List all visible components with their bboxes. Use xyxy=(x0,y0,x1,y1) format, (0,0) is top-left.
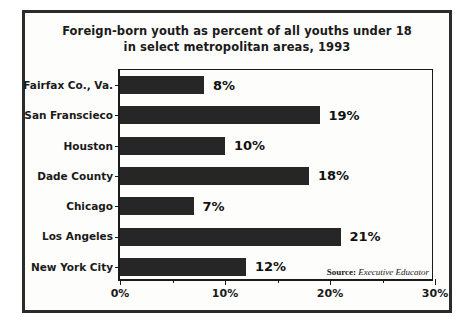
bar-value-label: 12% xyxy=(255,259,286,274)
x-axis-tick xyxy=(330,279,331,285)
x-axis-tick xyxy=(120,279,121,285)
bar xyxy=(120,137,225,155)
x-axis-tick xyxy=(435,279,436,285)
category-label: Houston xyxy=(64,131,113,161)
bar xyxy=(120,258,246,276)
y-axis-tick xyxy=(115,146,120,147)
y-axis-tick xyxy=(115,267,120,268)
bar-row: Los Angeles21% xyxy=(120,221,432,251)
bar-row: Houston10% xyxy=(120,131,432,161)
x-axis-label: 10% xyxy=(212,287,238,300)
x-axis-tick-minor xyxy=(383,279,384,283)
x-axis-label: 20% xyxy=(317,287,343,300)
bar-row: New York City12% xyxy=(120,252,432,282)
chart-title: Foreign-born youth as percent of all you… xyxy=(25,23,449,55)
bar-value-label: 10% xyxy=(234,138,265,153)
bar xyxy=(120,228,341,246)
y-axis-tick xyxy=(115,115,120,116)
bar-value-label: 8% xyxy=(213,78,235,93)
y-axis-tick xyxy=(115,176,120,177)
x-axis-tick-minor xyxy=(278,279,279,283)
bar-value-label: 21% xyxy=(350,229,381,244)
bar-row: Chicago7% xyxy=(120,191,432,221)
bar-row: Dade County18% xyxy=(120,161,432,191)
x-axis-tick-minor xyxy=(173,279,174,283)
bar-row: Fairfax Co., Va.8% xyxy=(120,70,432,100)
category-label: New York City xyxy=(31,252,113,282)
bar xyxy=(120,167,309,185)
bar-value-label: 19% xyxy=(329,108,360,123)
x-axis-label: 0% xyxy=(111,287,130,300)
y-axis-tick xyxy=(115,237,120,238)
category-label: Fairfax Co., Va. xyxy=(23,70,113,100)
x-axis-label: 30% xyxy=(422,287,448,300)
plot-area: Source: Executive Educator Fairfax Co., … xyxy=(118,69,433,281)
y-axis-tick xyxy=(115,85,120,86)
chart-figure-frame: Foreign-born youth as percent of all you… xyxy=(22,10,452,313)
category-label: Los Angeles xyxy=(42,221,113,251)
bar-row: San Franscieco19% xyxy=(120,100,432,130)
bar-value-label: 7% xyxy=(203,199,225,214)
category-label: San Franscieco xyxy=(24,100,113,130)
chart-title-line-2: in select metropolitan areas, 1993 xyxy=(25,39,449,55)
bar-value-label: 18% xyxy=(318,168,349,183)
bar xyxy=(120,106,320,124)
chart-title-line-1: Foreign-born youth as percent of all you… xyxy=(25,23,449,39)
y-axis-tick xyxy=(115,206,120,207)
bar xyxy=(120,76,204,94)
bar xyxy=(120,197,194,215)
x-axis-tick xyxy=(225,279,226,285)
category-label: Chicago xyxy=(66,191,113,221)
category-label: Dade County xyxy=(37,161,113,191)
